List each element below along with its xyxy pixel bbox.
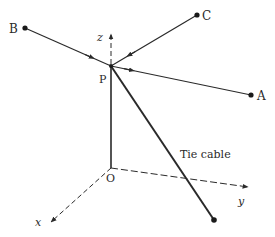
label-x-axis: x — [35, 216, 42, 229]
point-p-dot — [109, 64, 113, 68]
y-axis — [111, 168, 248, 187]
label-a: A — [256, 89, 266, 103]
member-pc — [111, 15, 197, 66]
tie-cable — [111, 66, 214, 220]
point-b-dot — [22, 25, 27, 30]
x-axis — [51, 168, 111, 222]
point-a-dot — [248, 92, 253, 97]
label-o: O — [106, 172, 115, 185]
cable-end-dot — [211, 217, 217, 223]
label-z-axis: z — [96, 31, 103, 44]
label-p: P — [99, 73, 107, 86]
label-tie-cable: Tie cable — [180, 148, 231, 161]
label-c: C — [202, 9, 211, 23]
label-b: B — [9, 22, 18, 36]
point-c-dot — [194, 12, 199, 17]
label-y-axis: y — [237, 195, 245, 208]
force-diagram: B C A P O z x y Tie cable — [0, 0, 275, 237]
member-pa — [111, 66, 251, 95]
